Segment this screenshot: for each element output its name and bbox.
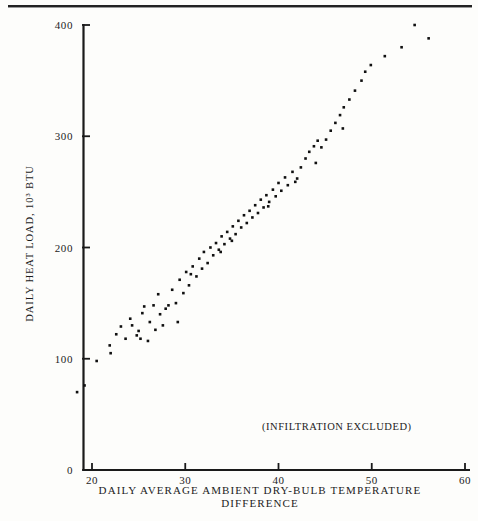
data-point [370, 64, 373, 67]
data-point [280, 189, 283, 192]
scatter-data-points [76, 24, 430, 394]
data-point [245, 222, 248, 225]
data-point [232, 225, 235, 228]
figure-page: 0100200300400 2030405060 DAILY HEAT LOAD… [0, 0, 478, 521]
data-point [209, 246, 212, 249]
x-axis-title-line1: DAILY AVERAGE AMBIENT DRY-BULB TEMPERATU… [99, 484, 422, 496]
data-point [178, 278, 181, 281]
data-point [139, 337, 142, 340]
data-point [240, 226, 243, 229]
data-point [360, 79, 363, 82]
data-point [190, 273, 193, 276]
data-point [300, 166, 303, 169]
data-point [157, 293, 160, 296]
data-point [147, 340, 150, 343]
data-point [154, 329, 157, 332]
data-point [129, 317, 132, 320]
data-point [384, 55, 387, 58]
data-point [149, 321, 152, 324]
data-point [234, 233, 237, 236]
data-point [218, 248, 221, 251]
data-point [135, 334, 138, 337]
data-point [320, 146, 323, 149]
data-point [159, 313, 162, 316]
data-point [243, 214, 246, 217]
data-point [167, 304, 170, 307]
y-tick-label: 400 [55, 19, 73, 31]
data-point [229, 237, 232, 240]
data-point [109, 352, 112, 355]
data-point [296, 177, 299, 180]
data-point [152, 304, 155, 307]
x-tick-label: 60 [459, 474, 471, 486]
data-point [304, 157, 307, 160]
data-point [237, 220, 240, 223]
data-point [265, 194, 268, 197]
data-point [267, 205, 270, 208]
data-point [313, 145, 316, 148]
data-point [354, 89, 357, 92]
data-point [254, 204, 257, 207]
data-point [268, 201, 271, 204]
data-point [188, 284, 191, 287]
data-point [198, 257, 201, 260]
data-point [339, 114, 342, 117]
data-point [272, 188, 275, 191]
data-point [274, 195, 277, 198]
data-point [284, 176, 287, 179]
data-point [195, 275, 198, 278]
data-point [212, 254, 215, 257]
x-axis-title-line2: DIFFERENCE [60, 497, 460, 510]
data-point [342, 127, 345, 130]
data-point [176, 321, 179, 324]
data-point [220, 235, 223, 238]
data-point [315, 162, 318, 165]
data-point [171, 288, 174, 291]
scatter-plot-svg: 0100200300400 2030405060 [0, 0, 478, 521]
data-point [206, 262, 209, 265]
data-point [115, 333, 118, 336]
data-point [262, 206, 265, 209]
data-point [334, 122, 337, 125]
y-tick-label: 100 [55, 353, 73, 365]
data-point [277, 182, 280, 185]
y-tick-label: 0 [67, 464, 73, 476]
data-point [287, 184, 290, 187]
data-point [182, 292, 185, 295]
data-point [191, 265, 194, 268]
data-point [143, 305, 146, 308]
data-point [329, 129, 332, 132]
data-point [108, 344, 111, 347]
data-point [251, 216, 254, 219]
data-point [223, 243, 226, 246]
y-axis-title: DAILY HEAT LOAD, 10³ BTU [24, 149, 35, 339]
data-point [291, 171, 294, 174]
data-point [226, 231, 229, 234]
axis-lines [83, 24, 470, 471]
data-point [231, 240, 234, 243]
data-point [95, 360, 98, 363]
data-point [413, 24, 416, 27]
y-tick-label: 200 [55, 242, 73, 254]
data-point [131, 324, 134, 327]
data-point [325, 138, 328, 141]
data-point [364, 70, 367, 73]
y-tick-label: 300 [55, 130, 73, 142]
data-point [203, 251, 206, 254]
data-point [141, 312, 144, 315]
data-point [137, 330, 140, 333]
chart-figure: 0100200300400 2030405060 DAILY HEAT LOAD… [0, 0, 478, 521]
chart-annotation-note: (INFILTRATION EXCLUDED) [262, 421, 412, 432]
data-point [76, 391, 79, 394]
data-point [348, 98, 351, 101]
data-point [248, 209, 251, 212]
data-point [164, 307, 167, 310]
data-point [342, 106, 345, 109]
data-point [215, 242, 218, 245]
data-point [257, 212, 260, 215]
data-point [427, 37, 430, 40]
x-axis-title: DAILY AVERAGE AMBIENT DRY-BULB TEMPERATU… [60, 484, 460, 510]
data-point [175, 302, 178, 305]
data-point [400, 46, 403, 49]
data-point [83, 384, 86, 387]
